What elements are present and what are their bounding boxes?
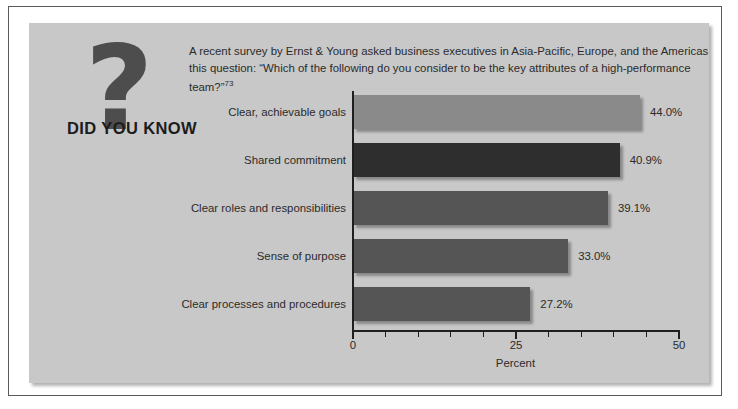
y-axis-line: [352, 91, 354, 331]
x-tick-minor: [483, 330, 484, 337]
footnote-marker: 73: [224, 79, 233, 88]
x-tick-label: 0: [350, 339, 356, 351]
x-tick-minor: [548, 330, 549, 337]
outer-frame: ? DID YOU KNOW A recent survey by Ernst …: [8, 6, 722, 396]
x-tick-minor: [450, 330, 451, 337]
bar-value-label: 33.0%: [578, 237, 610, 275]
plot-area: Clear, achievable goals44.0%Shared commi…: [189, 89, 709, 334]
bar: [353, 143, 620, 177]
x-tick-major: [352, 330, 353, 339]
x-tick-minor: [646, 330, 647, 337]
bar-value-label: 40.9%: [630, 141, 662, 179]
bar-value-label: 27.2%: [540, 285, 572, 323]
bar-category-label: Shared commitment: [244, 141, 346, 179]
x-tick-major: [515, 330, 516, 339]
bar: [353, 239, 568, 273]
x-tick-minor: [418, 330, 419, 337]
bar-row: Clear processes and procedures27.2%: [189, 285, 709, 323]
bar: [353, 95, 640, 129]
x-tick-label: 25: [510, 339, 523, 351]
x-tick-major: [678, 330, 679, 339]
survey-bar-chart: Clear, achievable goals44.0%Shared commi…: [189, 89, 709, 371]
survey-description: A recent survey by Ernst & Young asked b…: [189, 43, 709, 95]
bar: [353, 191, 608, 225]
bar-category-label: Clear roles and responsibilities: [191, 189, 346, 227]
bar: [353, 287, 530, 321]
bar-row: Clear roles and responsibilities39.1%: [189, 189, 709, 227]
bar-category-label: Sense of purpose: [257, 237, 346, 275]
bar-row: Clear, achievable goals44.0%: [189, 93, 709, 131]
bar-category-label: Clear, achievable goals: [228, 93, 346, 131]
x-axis-tick-labels: 02550: [189, 339, 709, 355]
bar-rows: Clear, achievable goals44.0%Shared commi…: [189, 89, 709, 329]
bar-value-label: 39.1%: [618, 189, 650, 227]
bar-value-label: 44.0%: [650, 93, 682, 131]
survey-description-text: A recent survey by Ernst & Young asked b…: [189, 45, 708, 93]
x-axis-title: Percent: [352, 357, 679, 369]
x-tick-label: 50: [673, 339, 686, 351]
bar-row: Sense of purpose33.0%: [189, 237, 709, 275]
x-tick-minor: [385, 330, 386, 337]
x-tick-minor: [581, 330, 582, 337]
bar-row: Shared commitment40.9%: [189, 141, 709, 179]
did-you-know-panel: ? DID YOU KNOW A recent survey by Ernst …: [29, 23, 709, 383]
x-tick-minor: [613, 330, 614, 337]
bar-category-label: Clear processes and procedures: [181, 285, 346, 323]
